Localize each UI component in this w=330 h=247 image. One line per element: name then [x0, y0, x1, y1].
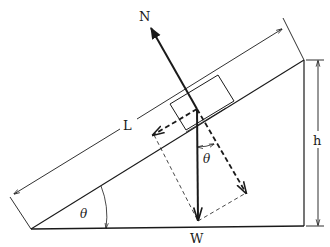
extension-line-left	[10, 197, 31, 229]
weight-angle-arc	[198, 144, 214, 147]
force-resolution	[153, 109, 246, 221]
weight-arrow	[197, 109, 198, 220]
weight-angle-label: θ	[203, 152, 211, 166]
height-label: h	[313, 133, 322, 148]
incline-triangle	[31, 60, 304, 229]
contact-line	[186, 108, 226, 132]
length-label: L	[123, 118, 132, 133]
normal-force-label: N	[139, 9, 150, 24]
weight-angle: θ	[198, 144, 214, 166]
inclined-plane-diagram: L h θ N W θ	[0, 0, 330, 247]
incline-angle: θ	[80, 186, 107, 228]
extension-line-right	[283, 18, 304, 60]
angle-arc	[101, 186, 107, 228]
block-outline	[170, 75, 234, 130]
resolution-dash-left	[154, 135, 198, 221]
normal-force-arrow	[151, 28, 197, 109]
ground-line	[31, 226, 304, 229]
incline-surface	[31, 60, 304, 229]
weight-label: W	[190, 231, 204, 246]
incline-angle-label: θ	[80, 207, 88, 221]
length-dimension: L	[10, 18, 304, 229]
height-dimension: h	[306, 60, 324, 226]
resolution-dash-bottom	[198, 193, 246, 221]
normal-force: N	[139, 9, 197, 109]
